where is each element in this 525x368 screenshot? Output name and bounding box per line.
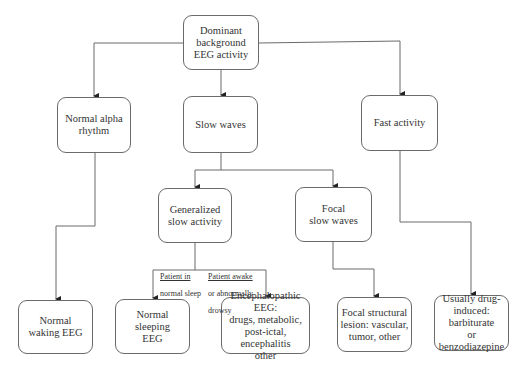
edge-label-awake-drowsy: Patient awake or abnormally drowsy <box>208 264 253 315</box>
node-drug-induced: Usually drug- induced: barbiturate or be… <box>434 295 509 351</box>
edge-label-awake-line3: drowsy <box>208 306 232 315</box>
edge-label-awake-line1: Patient awake <box>208 272 253 281</box>
node-normal-sleeping-eeg: Normal sleeping EEG <box>115 299 190 354</box>
node-focal-slow-waves: Focal slow waves <box>295 187 372 242</box>
node-normal-alpha-rhythm: Normal alpha rhythm <box>57 97 131 153</box>
edge-label-normal-sleep: Patient in normal sleep <box>160 264 201 298</box>
node-fast-activity: Fast activity <box>361 95 438 151</box>
edge-label-normal-sleep-line1: Patient in <box>160 272 190 281</box>
node-generalized-slow-activity: Generalized slow activity <box>158 188 232 243</box>
edge-label-awake-line2: or abnormally <box>208 289 253 298</box>
node-dominant-background: Dominant background EEG activity <box>183 15 259 70</box>
node-focal-structural-lesion: Focal structural lesion: vascular, tumor… <box>337 297 412 352</box>
edge-label-normal-sleep-line2: normal sleep <box>160 289 201 298</box>
node-normal-waking-eeg: Normal waking EEG <box>18 300 93 354</box>
node-slow-waves: Slow waves <box>183 96 258 153</box>
